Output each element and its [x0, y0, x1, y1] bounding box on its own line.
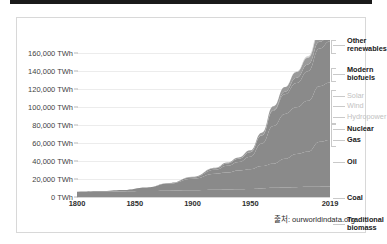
plot-area — [77, 40, 330, 197]
y-axis-tick-label: 20,000 TWh — [17, 175, 73, 184]
y-axis-tick-label: 100,000 TWh — [17, 103, 73, 112]
legend-leader-line — [333, 224, 345, 225]
y-axis-tick-label: 160,000 TWh — [17, 49, 73, 58]
x-axis-tick-label: 1850 — [126, 199, 143, 208]
legend-bracket — [331, 90, 336, 124]
top-black-banner — [10, 0, 372, 4]
legend-label[interactable]: Hydropower — [347, 113, 386, 121]
legend-leader-line — [333, 198, 345, 199]
legend-leader-line — [333, 162, 345, 163]
y-axis-tick-label: 120,000 TWh — [17, 85, 73, 94]
legend-bracket — [331, 124, 336, 147]
legend-bracket — [331, 68, 336, 82]
legend-label[interactable]: Other renewables — [347, 37, 387, 54]
y-axis-tick-label: 60,000 TWh — [17, 139, 73, 148]
y-axis-tick-label: 40,000 TWh — [17, 157, 73, 166]
x-axis-tick-label: 1950 — [242, 199, 259, 208]
stacked-area-series — [77, 40, 330, 197]
legend-label[interactable]: Oil — [347, 158, 357, 166]
legend-bracket — [331, 40, 336, 54]
y-axis-tick-label: 80,000 TWh — [17, 121, 73, 130]
legend-label[interactable]: Modern biofuels — [347, 66, 375, 83]
y-axis-tick-label: 0 TWh — [17, 193, 73, 202]
x-axis-tick-label: 1900 — [184, 199, 201, 208]
source-credit: 출처: ourworldindata.org — [274, 213, 355, 224]
legend-label[interactable]: Gas — [347, 136, 361, 144]
x-axis-tick-label: 1800 — [69, 199, 86, 208]
y-axis-tick-label: 140,000 TWh — [17, 67, 73, 76]
gridline — [77, 197, 330, 198]
legend-label[interactable]: Coal — [347, 194, 363, 202]
legend-label[interactable]: Solar — [347, 92, 364, 100]
chart-card: 0 TWh20,000 TWh40,000 TWh60,000 TWh80,00… — [16, 17, 366, 233]
series-legend: Other renewablesModern biofuelsSolarWind… — [331, 18, 367, 234]
legend-label[interactable]: Nuclear — [347, 125, 374, 133]
legend-label[interactable]: Wind — [347, 102, 364, 110]
